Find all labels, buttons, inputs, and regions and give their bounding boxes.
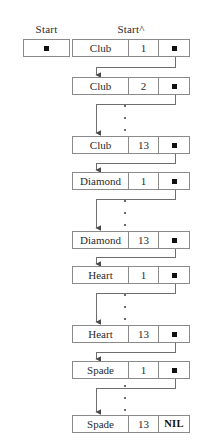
ellipsis-dot (124, 200, 126, 202)
node-rank-cell: 13 (129, 326, 159, 342)
ellipsis-dot (124, 385, 126, 387)
node-pointer-cell (159, 137, 189, 153)
node-rank-cell: 1 (129, 173, 159, 189)
node-suit-cell: Spade (73, 416, 129, 432)
pointer-square-icon (172, 46, 177, 51)
ellipsis-dot (124, 294, 126, 296)
edge-diamond13-to-heart1 (96, 249, 175, 264)
node-rank-cell: 13 (129, 137, 159, 153)
node-suit-cell: Spade (73, 362, 129, 378)
node-pointer-cell (159, 173, 189, 189)
ellipsis-spades (123, 385, 127, 411)
list-node: Diamond13 (72, 231, 190, 249)
ellipsis-dot (124, 409, 126, 411)
ellipsis-diamonds (123, 200, 127, 226)
pointer-square-icon (172, 84, 177, 89)
node-pointer-cell (159, 232, 189, 248)
edge-club13-to-diamond1 (96, 154, 175, 170)
node-pointer-cell (159, 326, 189, 342)
pointer-square-icon (172, 332, 177, 337)
node-suit-cell: Club (73, 40, 129, 56)
ellipsis-dot (124, 318, 126, 320)
ellipsis-hearts (123, 294, 127, 320)
node-suit-cell: Heart (73, 326, 129, 342)
list-node: Diamond1 (72, 172, 190, 190)
edge-heart1-to-heart13 (96, 284, 175, 322)
node-rank-cell: 2 (129, 78, 159, 94)
pointer-square-icon (172, 273, 177, 278)
node-rank-cell: 1 (129, 40, 159, 56)
node-suit-cell: Club (73, 137, 129, 153)
node-pointer-cell (159, 78, 189, 94)
pointer-square-icon (172, 143, 177, 148)
node-suit-cell: Diamond (73, 173, 129, 189)
node-pointer-cell (159, 267, 189, 283)
node-suit-cell: Diamond (73, 232, 129, 248)
list-node: Spade13NIL (72, 415, 190, 433)
ellipsis-dot (124, 212, 126, 214)
edge-diamond1-to-diamond13 (96, 190, 175, 228)
ellipsis-dot (124, 306, 126, 308)
pointer-square-icon (44, 46, 49, 51)
ellipsis-dot (124, 117, 126, 119)
start-deref-label: Start^ (72, 23, 190, 35)
start-label: Start (23, 23, 70, 35)
list-node: Club2 (72, 77, 190, 95)
list-node: Club13 (72, 136, 190, 154)
node-rank-cell: 1 (129, 362, 159, 378)
start-pointer-box (23, 39, 70, 57)
node-rank-cell: 1 (129, 267, 159, 283)
ellipsis-dot (124, 224, 126, 226)
ellipsis-dot (124, 105, 126, 107)
node-pointer-cell (159, 362, 189, 378)
edge-club2-to-club13 (96, 95, 175, 133)
list-node: Heart13 (72, 325, 190, 343)
node-nil-cell: NIL (159, 416, 189, 432)
node-rank-cell: 13 (129, 232, 159, 248)
node-rank-cell: 13 (129, 416, 159, 432)
pointer-square-icon (172, 368, 177, 373)
pointer-square-icon (172, 179, 177, 184)
node-pointer-cell (159, 40, 189, 56)
edge-club1-to-club2 (96, 57, 175, 75)
ellipsis-clubs (123, 105, 127, 131)
node-suit-cell: Heart (73, 267, 129, 283)
edge-heart13-to-spade1 (96, 343, 175, 359)
list-node: Club1 (72, 39, 190, 57)
node-suit-cell: Club (73, 78, 129, 94)
pointer-square-icon (172, 238, 177, 243)
list-node: Spade1 (72, 361, 190, 379)
list-node: Heart1 (72, 266, 190, 284)
ellipsis-dot (124, 397, 126, 399)
ellipsis-dot (124, 129, 126, 131)
edge-spade1-to-spade13 (96, 379, 175, 412)
